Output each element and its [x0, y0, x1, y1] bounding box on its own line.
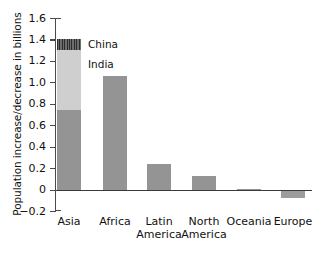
annotation-india: India [88, 58, 114, 70]
annotation-china: China [88, 38, 118, 50]
y-tick-label-1-4: 1.4 [29, 34, 47, 45]
y-tick-label-0: 0 [39, 184, 46, 195]
y-tick-0-2 [50, 168, 56, 169]
y-tick-label-0-4: 0.4 [29, 141, 47, 152]
bar-africa [103, 76, 127, 190]
y-tick-label-0-6: 0.6 [29, 120, 47, 131]
bar-asia-china-segment [57, 39, 81, 50]
bar-asia-base [57, 110, 81, 189]
y-tick-1-2 [50, 61, 56, 62]
y-tick-0-4 [50, 147, 56, 148]
y-axis-bottom-cap [56, 210, 61, 211]
bar-asia-india-segment [57, 50, 81, 110]
y-axis-title: Population increase/decrease in billions [11, 12, 23, 217]
x-label-europe: Europe [268, 216, 318, 229]
y-tick-minus-0-2 [50, 211, 56, 212]
y-tick-1-6 [50, 18, 56, 19]
bar-chart: Population increase/decrease in billions… [0, 0, 320, 265]
x-label-oceania: Oceania [224, 216, 274, 229]
y-tick-label-1-6: 1.6 [29, 13, 47, 24]
y-tick-label-0-2: 0.2 [29, 163, 47, 174]
zero-baseline [56, 190, 312, 192]
x-label-latin-america: Latin America [134, 216, 184, 241]
y-tick-1-0 [50, 82, 56, 83]
x-label-asia: Asia [44, 216, 94, 229]
x-label-africa: Africa [90, 216, 140, 229]
bar-europe [281, 191, 305, 197]
y-axis-top-cap [56, 18, 61, 19]
bar-north-america [192, 176, 216, 190]
y-tick-label-1-2: 1.2 [29, 55, 47, 66]
y-tick-label-minus-0-2: −0.2 [19, 206, 46, 217]
y-tick-0-8 [50, 104, 56, 105]
y-tick-0-6 [50, 125, 56, 126]
y-tick-label-1-0: 1.0 [29, 77, 47, 88]
x-label-north-america: North America [179, 216, 229, 241]
bar-latin-america [147, 164, 171, 190]
y-tick-1-4 [50, 39, 56, 40]
y-tick-label-0-8: 0.8 [29, 98, 47, 109]
